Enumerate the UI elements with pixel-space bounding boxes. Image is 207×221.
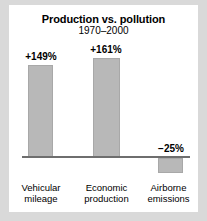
bar-value-label-vehicular-mileage: +149% [16,51,66,62]
bar-airborne-emissions [158,158,183,173]
category-label-economic-production: Economic production [75,182,138,204]
category-label-vehicular-mileage: Vehicular mileage [11,182,71,204]
category-label-line2: production [75,193,138,204]
chart-panel: Production vs. pollution 1970–2000 +149%… [9,5,198,212]
category-label-line1: Vehicular [11,182,71,193]
plot-area: +149% +161% −25% Vehicular mileage Econo… [9,5,198,212]
chart-figure: Production vs. pollution 1970–2000 +149%… [0,0,207,221]
category-label-line1: Airborne [139,182,198,193]
bar-value-label-economic-production: +161% [81,44,131,55]
bar-value-label-airborne-emissions: −25% [146,143,196,154]
x-axis-baseline [22,156,190,158]
category-label-line2: mileage [11,193,71,204]
category-label-line1: Economic [75,182,138,193]
bar-economic-production [93,58,120,157]
category-label-airborne-emissions: Airborne emissions [139,182,198,204]
bar-vehicular-mileage [28,65,53,157]
category-label-line2: emissions [139,193,198,204]
